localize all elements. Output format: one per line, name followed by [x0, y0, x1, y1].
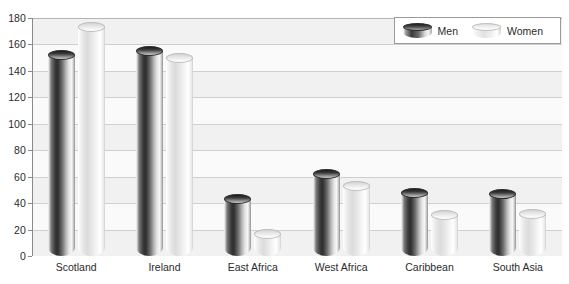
cylinder-body — [224, 199, 251, 256]
y-axis-tick-label: 160 — [8, 38, 26, 50]
cylinder-top-ellipse-icon — [136, 46, 163, 56]
x-axis-category-label: East Africa — [209, 261, 297, 273]
legend-cylinder-top-ellipse-icon — [403, 23, 432, 31]
y-axis-tick-label: 60 — [14, 171, 26, 183]
y-axis-tick-label: 140 — [8, 65, 26, 77]
x-axis-category-label: South Asia — [474, 261, 562, 273]
y-axis-tick-label: 20 — [14, 224, 26, 236]
y-axis-tick-label: 120 — [8, 91, 26, 103]
bar-men — [136, 46, 163, 256]
bar-chart: 020406080100120140160180 ScotlandIreland… — [0, 0, 569, 284]
bar-men — [313, 169, 340, 256]
y-axis-tick-label: 80 — [14, 144, 26, 156]
cylinder-top-ellipse-icon — [254, 229, 281, 239]
cylinder-body — [343, 186, 370, 256]
legend-label: Women — [507, 25, 543, 37]
bar-men — [489, 189, 516, 256]
legend-item-women[interactable]: Women — [472, 23, 551, 38]
x-axis-category-label: Caribbean — [385, 261, 473, 273]
bar-men — [48, 50, 75, 256]
cylinder-body — [136, 51, 163, 256]
y-axis-tick-label: 40 — [14, 197, 26, 209]
chart-legend: MenWomen — [394, 17, 561, 44]
bars-layer — [32, 18, 562, 256]
bar-women — [254, 229, 281, 256]
cylinder-body — [166, 58, 193, 256]
cylinder-top-ellipse-icon — [313, 169, 340, 179]
bar-women — [519, 209, 546, 256]
y-axis-tick-label: 0 — [20, 250, 26, 262]
cylinder-top-ellipse-icon — [48, 50, 75, 60]
bar-group — [120, 18, 208, 256]
cylinder-body — [519, 214, 546, 256]
legend-cylinder-top-ellipse-icon — [472, 23, 501, 31]
bar-group — [385, 18, 473, 256]
cylinder-body — [489, 194, 516, 256]
y-axis-tick-label: 180 — [8, 12, 26, 24]
x-axis: ScotlandIrelandEast AfricaWest AfricaCar… — [32, 258, 562, 282]
x-axis-category-label: West Africa — [297, 261, 385, 273]
y-axis-tick-label: 100 — [8, 118, 26, 130]
x-axis-category-label: Ireland — [120, 261, 208, 273]
cylinder-body — [401, 193, 428, 256]
cylinder-top-ellipse-icon — [519, 209, 546, 219]
x-axis-category-label: Scotland — [32, 261, 120, 273]
bar-group — [209, 18, 297, 256]
bar-women — [166, 53, 193, 256]
cylinder-top-ellipse-icon — [166, 53, 193, 63]
bar-group — [474, 18, 562, 256]
cylinder-body — [313, 174, 340, 256]
bar-group — [32, 18, 120, 256]
bar-men — [224, 194, 251, 256]
cylinder-body — [48, 55, 75, 256]
bar-men — [401, 188, 428, 256]
legend-label: Men — [438, 25, 458, 37]
bar-women — [431, 210, 458, 256]
cylinder-top-ellipse-icon — [489, 189, 516, 199]
cylinder-top-ellipse-icon — [401, 188, 428, 198]
cylinder-light-icon — [472, 23, 501, 38]
cylinder-top-ellipse-icon — [343, 181, 370, 191]
cylinder-dark-icon — [403, 23, 432, 38]
cylinder-body — [78, 27, 105, 256]
bar-women — [78, 22, 105, 256]
cylinder-top-ellipse-icon — [431, 210, 458, 220]
cylinder-body — [431, 215, 458, 256]
bar-group — [297, 18, 385, 256]
bar-women — [343, 181, 370, 256]
y-axis-tick-mark — [28, 256, 32, 257]
y-axis: 020406080100120140160180 — [0, 0, 32, 284]
legend-item-men[interactable]: Men — [403, 23, 466, 38]
